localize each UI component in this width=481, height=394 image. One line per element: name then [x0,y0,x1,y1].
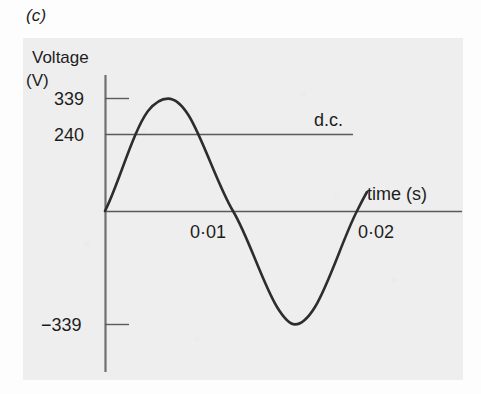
dc-label: d.c. [314,110,343,130]
time-axis-label: time (s) [367,184,427,204]
y-tick-label-240: 240 [54,125,84,145]
y-tick-label-339: 339 [54,89,84,109]
voltage-time-chart: Voltage (V) 339 240 −339 0·01 0·02 d.c. … [0,0,481,394]
x-tick-label-0-02: 0·02 [358,222,394,242]
figure-page: (c) Voltage (V) 339 240 −339 0·01 0·02 d… [0,0,481,394]
y-axis-label-unit: (V) [26,71,49,90]
y-tick-label-minus-339: −339 [41,315,82,335]
y-axis-label-name: Voltage [32,48,89,67]
x-tick-label-0-01: 0·01 [190,222,226,242]
